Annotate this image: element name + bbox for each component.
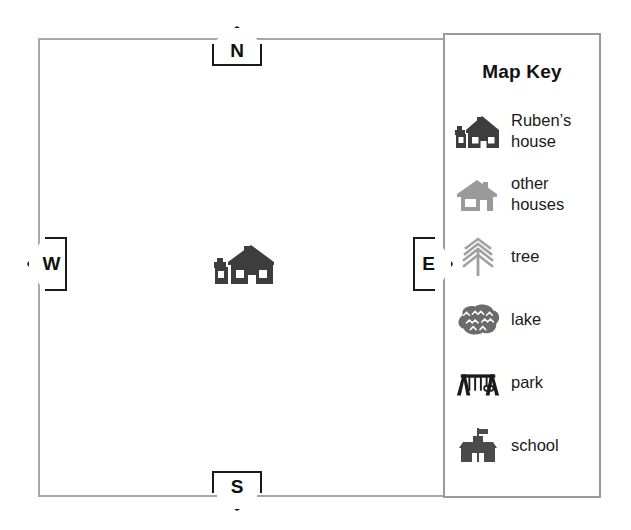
map-key-panel: Map Key [443,33,601,498]
park-icon [455,360,501,406]
map-key-list: Ruben’s house other houses [445,99,599,477]
map-feature-rubens-house [214,238,276,288]
map-key-title: Map Key [445,61,599,83]
compass-label-east: E [422,253,435,275]
compass-label-north: N [230,40,244,62]
map-key-label-rubens-house: Ruben’s house [501,110,593,150]
map-key-item-other-houses: other houses [455,162,593,225]
map-key-label-tree: tree [501,246,539,266]
map-key-item-lake: lake [455,288,593,351]
map-key-item-park: park [455,351,593,414]
rubens-house-icon [455,108,501,154]
other-houses-icon [455,171,501,217]
map-key-label-other-houses: other houses [501,173,593,213]
map-key-label-school: school [501,435,559,455]
map-key-label-lake: lake [501,309,541,329]
school-icon [455,423,501,469]
compass-label-south: S [231,476,244,498]
map-key-item-rubens-house: Ruben’s house [455,99,593,162]
map-key-item-tree: tree [455,225,593,288]
compass-label-west: W [43,253,61,275]
lake-icon [455,297,501,343]
map-key-item-school: school [455,414,593,477]
compass-marker-south: S [212,471,262,511]
tree-icon [455,234,501,280]
compass-marker-west: W [27,237,67,291]
compass-marker-north: N [212,26,262,66]
map-key-label-park: park [501,372,543,392]
